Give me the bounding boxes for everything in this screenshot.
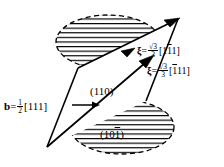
diagram-canvas — [0, 0, 224, 167]
xi-upper-label: ξ=√33[111] — [137, 43, 180, 60]
burgers-equals: = — [10, 100, 16, 112]
xi-upper-equals: = — [141, 45, 147, 56]
xi-lower-equals: = — [151, 65, 157, 76]
xi-lower-bracket-close: ] — [187, 65, 190, 76]
xi-lower-fraction: √33 — [158, 63, 168, 80]
burgers-indices: 111 — [28, 100, 44, 112]
plane-label-10-1bar: (101) — [100, 129, 124, 140]
plane-label-110: (110) — [90, 86, 113, 97]
cross-slip-diagram-figure: b=12[111] ξ=√33[111] ξ=√33[111] (110) (1… — [0, 0, 224, 167]
burgers-bracket-close: ] — [43, 100, 47, 112]
plane-lower-bracket-close: ) — [120, 128, 124, 140]
xi-upper-bracket-close: ] — [177, 45, 180, 56]
xi-upper-fraction: √33 — [148, 43, 158, 60]
xi-upper-fraction-denominator: 3 — [148, 51, 158, 59]
burgers-fraction: 12 — [17, 99, 23, 116]
burgers-fraction-denominator: 2 — [17, 107, 23, 115]
burgers-vector-label: b=12[111] — [4, 99, 47, 116]
xi-lower-label: ξ=√33[111] — [147, 63, 190, 80]
xi-lower-fraction-denominator: 3 — [158, 71, 168, 79]
